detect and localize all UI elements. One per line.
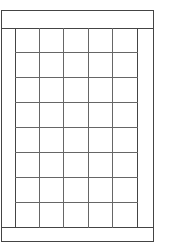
grid-cell [40, 28, 65, 53]
grid-cell [113, 28, 138, 53]
grid-cell [89, 128, 114, 153]
grid-cell [15, 103, 40, 128]
grid-cell [40, 153, 65, 178]
grid-cell [15, 203, 40, 228]
grid-cell [89, 103, 114, 128]
grid-cell [113, 178, 138, 203]
grid-cell [40, 128, 65, 153]
grid-cell [89, 203, 114, 228]
grid-cell [113, 78, 138, 103]
grid-cell [89, 28, 114, 53]
footer-band [1, 227, 154, 242]
grid-cell [64, 28, 89, 53]
grid-cell [15, 128, 40, 153]
grid-cell [113, 53, 138, 78]
grid-cell [15, 28, 40, 53]
grid-cell [113, 128, 138, 153]
grid-cell [64, 53, 89, 78]
grid-cell [64, 153, 89, 178]
grid-cell [40, 103, 65, 128]
grid-cell [89, 153, 114, 178]
grid-cell [40, 178, 65, 203]
grid-cell [15, 153, 40, 178]
grid-cell [113, 103, 138, 128]
header-band [1, 10, 154, 29]
grid-cell [113, 203, 138, 228]
grid-cell [40, 203, 65, 228]
grid-cell [40, 78, 65, 103]
grid-cell [89, 178, 114, 203]
grid-cell [64, 78, 89, 103]
grid-cell [64, 103, 89, 128]
grid-cell [64, 178, 89, 203]
cell-grid [15, 28, 138, 228]
grid-cell [64, 203, 89, 228]
grid-cell [64, 128, 89, 153]
grid-cell [89, 78, 114, 103]
grid-cell [113, 153, 138, 178]
grid-cell [40, 53, 65, 78]
grid-cell [89, 53, 114, 78]
grid-cell [15, 78, 40, 103]
grid-cell [15, 53, 40, 78]
grid-cell [15, 178, 40, 203]
